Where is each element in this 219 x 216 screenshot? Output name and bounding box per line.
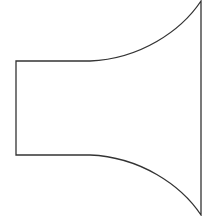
horn-diagram xyxy=(0,0,219,216)
horn-outline-shape xyxy=(16,1,201,215)
